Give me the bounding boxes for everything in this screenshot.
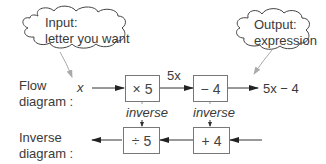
flow-intermediate-value: 5x <box>167 68 181 83</box>
flow-box-subtract: − 4 <box>193 75 228 102</box>
flow-input-variable: x <box>77 80 84 95</box>
flow-output-expression: 5x − 4 <box>263 81 299 96</box>
inverse-label-line1: Inverse <box>19 130 62 145</box>
input-cloud-title: Input: <box>45 15 78 30</box>
output-pointer-arrow <box>254 50 272 74</box>
flow-label-line2: diagram : <box>19 94 73 109</box>
inverse-box-divide: ÷ 5 <box>123 127 160 154</box>
inverse-label-2: inverse <box>193 105 235 120</box>
inverse-box-add: + 4 <box>193 127 230 154</box>
input-cloud-subtitle: letter you want <box>45 31 130 46</box>
flow-label-line1: Flow <box>19 78 46 93</box>
flow-box-multiply: × 5 <box>125 75 160 102</box>
inverse-label-line2: diagram : <box>19 146 73 161</box>
input-pointer-arrow <box>60 52 72 77</box>
output-cloud-subtitle: expression <box>254 33 317 48</box>
output-cloud-title: Output: <box>254 17 297 32</box>
inverse-label-1: inverse <box>126 105 168 120</box>
